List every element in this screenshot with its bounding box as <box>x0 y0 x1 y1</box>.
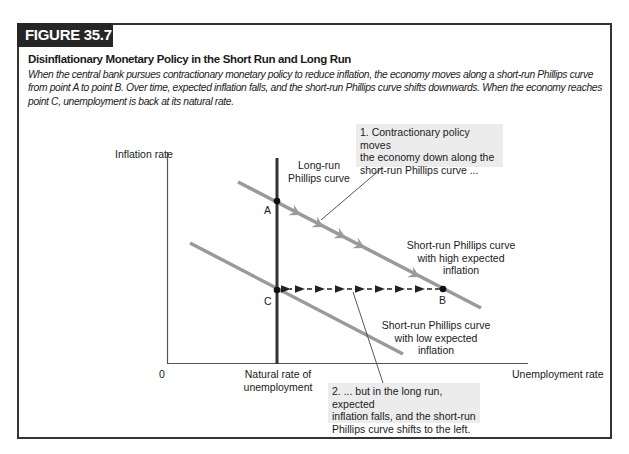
point-c <box>274 287 281 294</box>
srpc-low-label: Short-run Phillips curve with low expect… <box>373 319 499 357</box>
point-b-label: B <box>439 294 446 307</box>
callout-2: 2. ... but in the long run, expected inf… <box>328 383 480 423</box>
srpc-low-expected-inflation <box>190 243 403 354</box>
origin-label: 0 <box>159 368 165 381</box>
point-a <box>274 198 281 205</box>
point-a-label: A <box>264 204 271 217</box>
lrpc-label: Long-run Phillips curve <box>283 159 355 184</box>
point-c-label: C <box>264 295 272 308</box>
callout-1: 1. Contractionary policy moves the econo… <box>356 124 503 167</box>
point-b <box>440 286 447 293</box>
natural-rate-label: Natural rate of unemployment <box>238 368 318 393</box>
x-axis-label: Unemployment rate <box>512 368 604 381</box>
y-axis-label: Inflation rate <box>115 148 173 161</box>
srpc-high-label: Short-run Phillips curve with high expec… <box>398 239 524 277</box>
